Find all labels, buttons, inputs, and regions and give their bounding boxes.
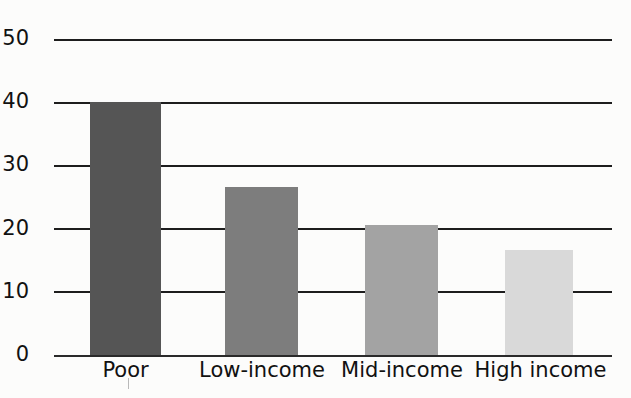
bar-high-income bbox=[505, 250, 573, 354]
xtick-label-low-income: Low-income bbox=[198, 360, 326, 381]
bars-layer bbox=[54, 30, 612, 362]
ytick-label-10: 10 bbox=[0, 281, 29, 302]
xtick-label-poor: Poor bbox=[73, 360, 178, 381]
axis-tick-artifact bbox=[128, 378, 129, 389]
ytick-label-50: 50 bbox=[0, 28, 29, 49]
plot-area: 50 40 30 20 10 0 bbox=[54, 30, 612, 362]
bar-poor bbox=[90, 102, 161, 355]
bar-low-income bbox=[225, 187, 298, 354]
ytick-label-30: 30 bbox=[0, 154, 29, 175]
ytick-label-20: 20 bbox=[0, 218, 29, 239]
bar-chart: 50 40 30 20 10 0 Poor Low-income Mid-inc… bbox=[0, 0, 631, 398]
xtick-label-mid-income: Mid-income bbox=[338, 360, 466, 381]
xtick-label-high-income: High income bbox=[473, 360, 608, 381]
ytick-label-40: 40 bbox=[0, 91, 29, 112]
ytick-label-0: 0 bbox=[0, 344, 29, 365]
bar-mid-income bbox=[365, 225, 438, 355]
